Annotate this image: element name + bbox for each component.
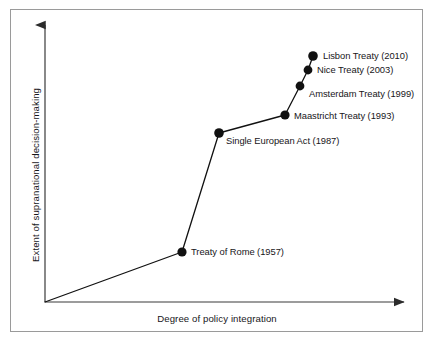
data-point-marker [296,82,305,91]
data-point-label: Amsterdam Treaty (1999) [309,89,414,98]
data-point-label: Treaty of Rome (1957) [191,247,284,256]
data-point-label: Nice Treaty (2003) [317,65,393,74]
data-point-label: Maastricht Treaty (1993) [294,111,394,120]
series-line [45,56,313,302]
chart-figure: Treaty of Rome (1957)Single European Act… [0,0,434,342]
data-point-marker [304,66,313,75]
y-axis-label: Extent of supranational decision-making [30,88,41,262]
data-point-marker [280,110,289,119]
x-axis-label: Degree of policy integration [0,313,434,324]
data-point-marker [308,51,318,61]
series-markers [177,51,317,256]
data-point-marker [214,128,224,138]
data-point-label: Single European Act (1987) [226,136,339,145]
data-point-marker [177,247,186,256]
data-point-label: Lisbon Treaty (2010) [323,51,408,60]
